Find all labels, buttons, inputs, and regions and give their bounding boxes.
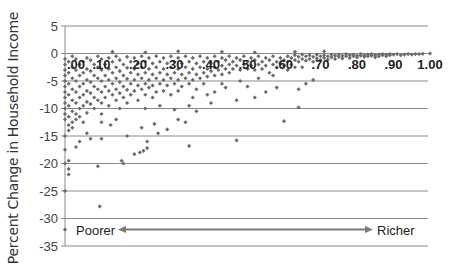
data-point xyxy=(234,98,238,102)
arrow-head-left-icon xyxy=(118,226,126,233)
y-tick-label: -25 xyxy=(39,184,58,199)
data-point xyxy=(121,95,125,99)
data-point xyxy=(70,87,74,91)
data-point xyxy=(96,164,100,168)
data-point xyxy=(92,95,96,99)
data-point xyxy=(238,79,242,83)
data-point xyxy=(118,106,122,110)
data-point xyxy=(154,76,158,80)
data-point xyxy=(213,90,217,94)
data-point xyxy=(293,58,297,62)
data-point xyxy=(209,101,213,105)
data-point xyxy=(234,138,238,142)
data-point xyxy=(191,67,195,71)
data-point xyxy=(145,146,149,150)
data-point xyxy=(88,91,92,95)
data-point xyxy=(151,83,155,87)
data-point xyxy=(132,152,136,156)
data-point xyxy=(63,148,67,152)
data-point xyxy=(161,89,165,93)
data-point xyxy=(132,89,136,93)
data-point xyxy=(329,55,333,59)
data-point xyxy=(98,204,102,208)
data-point xyxy=(143,106,147,110)
x-tick-label: .60 xyxy=(275,57,293,72)
data-point xyxy=(147,86,151,90)
data-point xyxy=(63,79,67,83)
data-point xyxy=(151,72,155,76)
data-point xyxy=(129,93,133,97)
data-point xyxy=(67,172,71,176)
data-point xyxy=(85,131,89,135)
data-point xyxy=(140,126,144,130)
data-point xyxy=(114,65,118,69)
data-point xyxy=(118,69,122,73)
data-point xyxy=(143,82,147,86)
data-point xyxy=(260,60,264,64)
data-point xyxy=(169,93,173,97)
data-point xyxy=(63,161,67,165)
data-point xyxy=(67,82,71,86)
data-point xyxy=(304,54,308,58)
data-point xyxy=(85,67,89,71)
data-point xyxy=(194,109,198,113)
data-point xyxy=(304,59,308,63)
data-points xyxy=(63,49,432,231)
data-point xyxy=(110,60,114,64)
data-point xyxy=(81,120,85,124)
y-tick-label: -10 xyxy=(39,101,58,116)
data-point xyxy=(81,82,85,86)
data-point xyxy=(297,60,301,64)
data-point xyxy=(125,77,129,81)
data-point xyxy=(141,149,145,153)
data-point xyxy=(85,89,89,93)
data-point xyxy=(180,84,184,88)
data-point xyxy=(187,104,191,108)
data-point xyxy=(183,76,187,80)
y-axis: 50-5-10-15-20-25-30-35 xyxy=(39,19,65,254)
data-point xyxy=(63,227,67,231)
data-point xyxy=(129,82,133,86)
data-point xyxy=(67,123,71,127)
data-point xyxy=(70,120,74,124)
data-point xyxy=(158,104,162,108)
y-tick-label: 5 xyxy=(51,19,58,34)
poorer-label: Poorer xyxy=(76,223,116,238)
data-point xyxy=(63,117,67,121)
data-point xyxy=(136,98,140,102)
data-point xyxy=(88,102,92,106)
x-tick-label: .40 xyxy=(202,57,220,72)
data-point xyxy=(96,87,100,91)
data-point xyxy=(220,56,224,60)
data-point xyxy=(103,84,107,88)
data-point xyxy=(70,76,74,80)
data-point xyxy=(300,57,304,61)
data-point xyxy=(67,128,71,132)
data-point xyxy=(205,75,209,79)
data-point xyxy=(92,106,96,110)
data-point xyxy=(99,79,103,83)
data-point xyxy=(96,98,100,102)
data-point xyxy=(183,65,187,69)
data-point xyxy=(74,90,78,94)
data-point xyxy=(63,106,67,110)
data-point xyxy=(125,88,129,92)
data-point xyxy=(275,86,279,90)
data-point xyxy=(151,95,155,99)
data-point xyxy=(151,61,155,65)
data-point xyxy=(176,117,180,121)
data-point xyxy=(125,134,129,138)
data-point xyxy=(264,90,268,94)
data-point xyxy=(85,100,89,104)
data-point xyxy=(114,54,118,58)
x-tick-label: .10 xyxy=(92,57,110,72)
data-point xyxy=(107,89,111,93)
data-point xyxy=(340,56,344,60)
data-point xyxy=(63,189,67,193)
y-tick-label: -35 xyxy=(39,239,58,254)
data-point xyxy=(297,55,301,59)
data-point xyxy=(147,56,151,60)
data-point xyxy=(194,72,198,76)
data-point xyxy=(169,76,173,80)
data-point xyxy=(158,71,162,75)
